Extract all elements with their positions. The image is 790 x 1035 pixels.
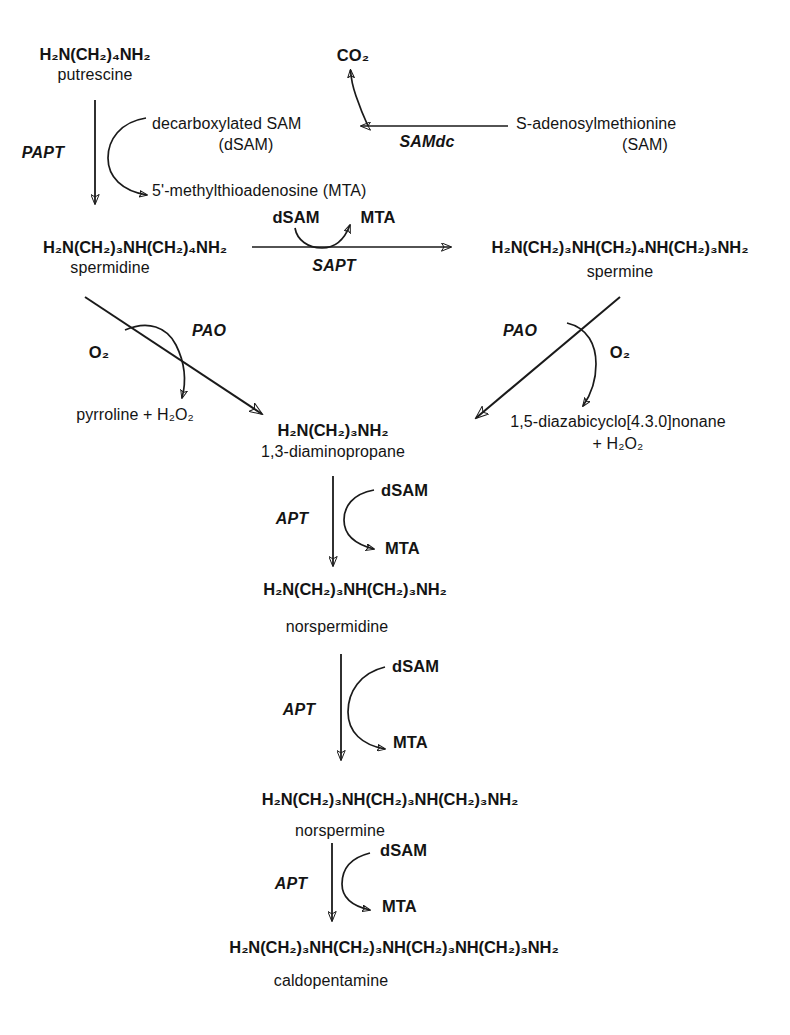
dsam-abbrev-label: (dSAM)	[219, 136, 274, 154]
diazabicyclo-products-line2: + H₂O₂	[593, 435, 644, 453]
pathway-diagram: H₂N(CH₂)₄NH₂ putrescine CO₂ decarboxylat…	[0, 0, 790, 1035]
pao-left-arrow-group	[85, 297, 262, 414]
norspermine-name: norspermine	[295, 822, 385, 840]
spermidine-name: spermidine	[70, 259, 149, 277]
pathway-arrows-layer	[0, 0, 790, 1035]
samdc-arrow-group	[351, 70, 509, 126]
mta-full-label: 5'-methylthioadenosine (MTA)	[152, 182, 367, 200]
apt-step-1-arrow-group	[333, 476, 374, 566]
enzyme-pao-right-label: PAO	[503, 322, 537, 340]
norspermidine-name: norspermidine	[286, 618, 389, 636]
dsam-cofactor-sapt: dSAM	[272, 208, 319, 226]
putrescine-formula: H₂N(CH₂)₄NH₂	[39, 45, 150, 63]
diazabicyclo-products-line1: 1,5-diazabicyclo[4.3.0]nonane	[510, 413, 726, 431]
pyrroline-products-label: pyrroline + H₂O₂	[76, 406, 194, 424]
apt-step-2-arrow-group	[341, 654, 385, 760]
dsam-cofactor-apt-3: dSAM	[380, 841, 427, 859]
spermidine-formula: H₂N(CH₂)₃NH(CH₂)₄NH₂	[43, 238, 227, 256]
dsam-cofactor-apt-2: dSAM	[392, 657, 439, 675]
sam-abbrev-label: (SAM)	[622, 136, 668, 154]
pao-right-arrow-group	[476, 297, 620, 418]
s-adenosylmethionine-label: S-adenosylmethionine	[516, 115, 676, 133]
sapt-arrow-group	[252, 225, 451, 248]
enzyme-apt-3-label: APT	[275, 875, 308, 893]
decarboxylated-sam-label: decarboxylated SAM	[152, 115, 301, 133]
spermine-name: spermine	[587, 263, 654, 281]
diaminopropane-name: 1,3-diaminopropane	[261, 443, 405, 461]
enzyme-samdc-label: SAMdc	[399, 133, 454, 151]
dsam-cofactor-apt-1: dSAM	[381, 481, 428, 499]
enzyme-papt-label: PAPT	[22, 144, 64, 162]
mta-cofactor-apt-2: MTA	[393, 733, 428, 751]
enzyme-apt-1-label: APT	[276, 510, 309, 528]
enzyme-apt-2-label: APT	[283, 701, 316, 719]
mta-cofactor-sapt: MTA	[361, 208, 396, 226]
spermine-formula: H₂N(CH₂)₃NH(CH₂)₄NH(CH₂)₃NH₂	[492, 238, 749, 256]
oxygen-label-right: O₂	[610, 343, 630, 361]
papt-arrow-group	[95, 100, 147, 204]
enzyme-sapt-label: SAPT	[312, 257, 355, 275]
norspermine-formula: H₂N(CH₂)₃NH(CH₂)₃NH(CH₂)₃NH₂	[262, 790, 519, 808]
co2-label: CO₂	[337, 46, 369, 64]
putrescine-name: putrescine	[58, 66, 133, 84]
diaminopropane-formula: H₂N(CH₂)₃NH₂	[278, 421, 389, 439]
caldopentamine-name: caldopentamine	[274, 972, 388, 990]
caldopentamine-formula: H₂N(CH₂)₃NH(CH₂)₃NH(CH₂)₃NH(CH₂)₃NH₂	[229, 938, 558, 956]
mta-cofactor-apt-1: MTA	[385, 539, 420, 557]
enzyme-pao-left-label: PAO	[192, 322, 226, 340]
apt-step-3-arrow-group	[332, 843, 370, 921]
norspermidine-formula: H₂N(CH₂)₃NH(CH₂)₃NH₂	[263, 580, 447, 598]
oxygen-label-left: O₂	[89, 343, 109, 361]
mta-cofactor-apt-3: MTA	[382, 897, 417, 915]
